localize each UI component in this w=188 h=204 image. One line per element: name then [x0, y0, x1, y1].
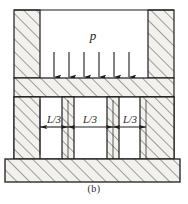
upper-hatched-beam: [14, 78, 174, 97]
dimension-label-2: L/3: [82, 114, 97, 125]
upper-bay-void: [40, 10, 148, 78]
upper-beam-body: [14, 78, 174, 97]
figure-caption: (b): [0, 183, 188, 194]
middle-storey: [14, 97, 174, 159]
base-slab-body: [5, 159, 180, 182]
right-column-body: [148, 10, 174, 78]
left-column-body: [14, 10, 40, 78]
mid-column-4: [140, 97, 174, 159]
pressure-label: p: [89, 28, 97, 43]
bottom-hatched-base-slab: [5, 159, 180, 182]
dimension-label-1: L/3: [46, 114, 61, 125]
mid-column-1: [14, 97, 40, 159]
upper-bay: [40, 10, 148, 78]
right-hatched-column: [148, 10, 174, 78]
dimension-label-3: L/3: [122, 114, 137, 125]
left-hatched-column: [14, 10, 40, 78]
structural-diagram: p L/3 L/3 L/3: [0, 0, 188, 204]
